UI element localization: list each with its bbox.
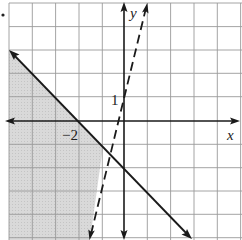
x-axis-label: x bbox=[226, 127, 234, 143]
stray-dot bbox=[1, 13, 4, 16]
y-tick-label-1: 1 bbox=[111, 92, 119, 108]
x-tick-label-neg2: −2 bbox=[62, 127, 78, 143]
inequality-graph: y x −2 1 bbox=[0, 0, 242, 240]
y-axis-label: y bbox=[128, 5, 137, 21]
